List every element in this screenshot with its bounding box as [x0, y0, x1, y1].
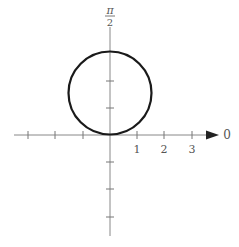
vertical-axis-label-denominator: 2: [107, 17, 113, 28]
polar-axis-label: 0: [223, 128, 231, 142]
x-tick-label-2: 2: [161, 143, 168, 156]
polar-axis-arrow-icon: [206, 131, 219, 140]
polar-plot: 1 2 3 0 π 2: [0, 0, 239, 247]
x-tick-label-1: 1: [134, 143, 141, 156]
x-tick-label-3: 3: [189, 143, 196, 156]
vertical-axis-label-numerator: π: [105, 4, 114, 17]
